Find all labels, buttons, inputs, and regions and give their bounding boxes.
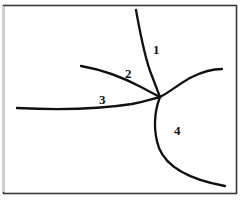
- branch-upper-right-curve: [160, 69, 222, 97]
- figure-canvas: 1 2 3 4: [0, 0, 245, 204]
- curve-label-3: 3: [99, 93, 106, 106]
- curve-label-2: 2: [125, 67, 132, 80]
- figure-frame: [4, 6, 237, 194]
- curve-label-4: 4: [174, 124, 181, 137]
- branch-4-curve: [155, 97, 225, 186]
- branch-2-curve: [81, 66, 160, 97]
- curve-label-1: 1: [153, 43, 160, 56]
- curve-diagram: [0, 0, 245, 204]
- branch-3-curve: [17, 97, 160, 109]
